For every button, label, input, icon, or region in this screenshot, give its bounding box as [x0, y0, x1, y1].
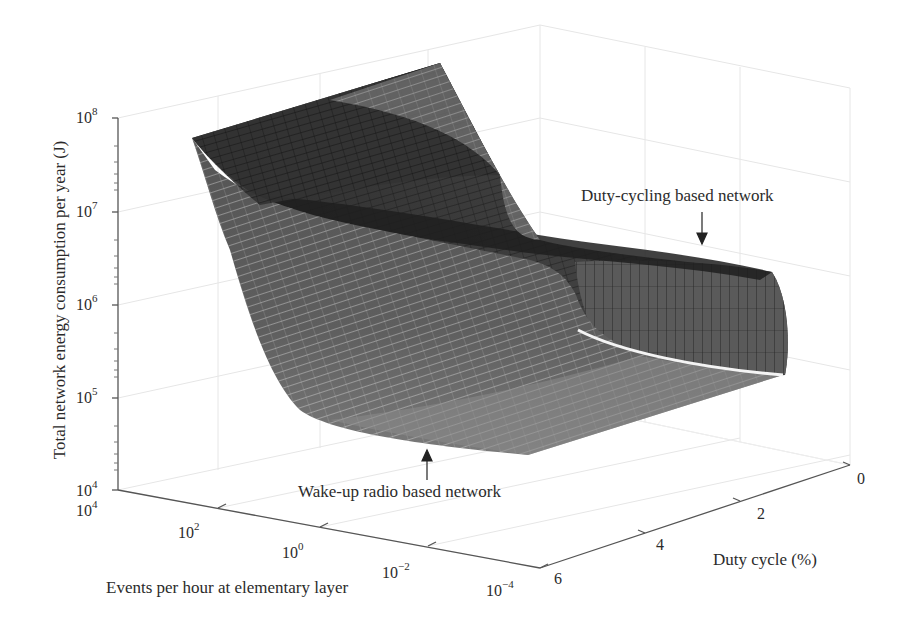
wakeup-annotation: Wake-up radio based network	[298, 482, 501, 502]
z-tick-1e6: 106	[76, 294, 98, 314]
x-tick-1e4: 104	[76, 500, 98, 520]
y-tick-2: 2	[757, 505, 765, 523]
x-tick-1e-4: 10−4	[486, 580, 514, 600]
duty-cycling-annotation: Duty-cycling based network	[581, 186, 774, 206]
x-axis-label: Events per hour at elementary layer	[106, 578, 348, 598]
y-tick-6: 6	[554, 570, 562, 588]
z-axis-label: Total network energy consumption per yea…	[50, 141, 70, 460]
z-tick-1e5: 105	[76, 387, 98, 407]
surface-plot	[0, 0, 912, 634]
x-tick-1e-2: 10−2	[382, 562, 410, 582]
y-tick-0: 0	[857, 470, 865, 488]
y-tick-4: 4	[656, 536, 664, 554]
z-tick-1e8: 108	[76, 107, 98, 127]
x-tick-1e2: 102	[178, 522, 200, 542]
y-axis-label: Duty cycle (%)	[713, 550, 817, 570]
z-tick-1e7: 107	[76, 201, 98, 221]
x-tick-1e0: 100	[282, 542, 304, 562]
